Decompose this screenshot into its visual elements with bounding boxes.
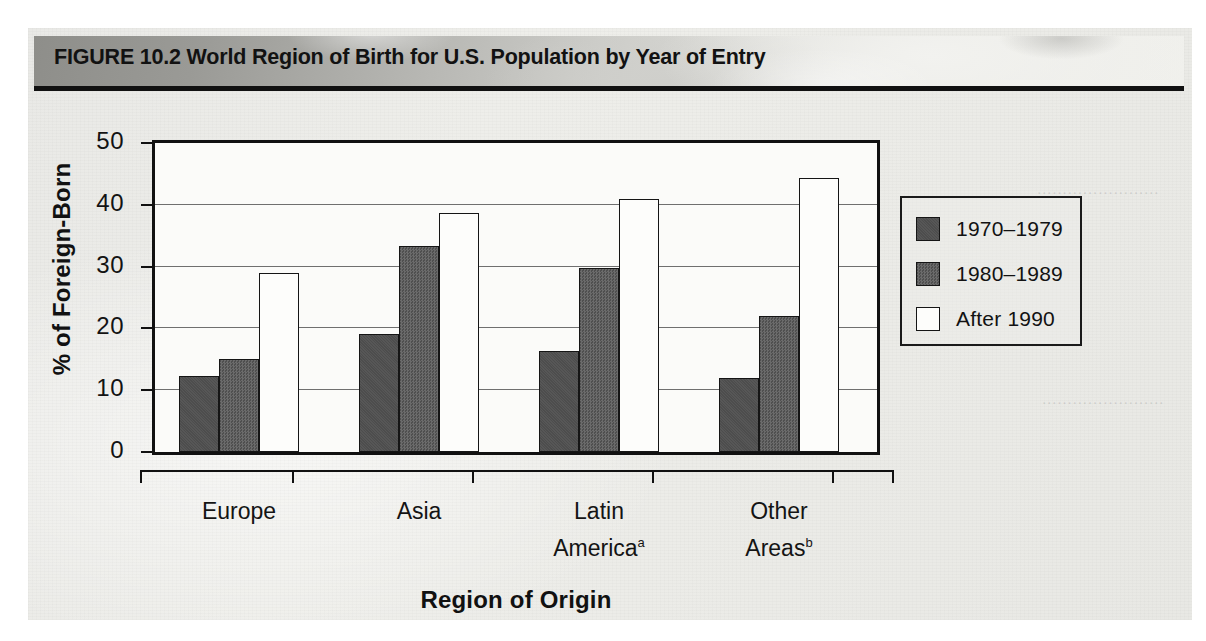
bar [719, 378, 759, 452]
x-axis-tick [140, 470, 142, 483]
y-axis-tick [141, 327, 152, 329]
page-title: FIGURE 10.2 World Region of Birth for U.… [54, 45, 766, 70]
bar [539, 351, 579, 452]
chart-legend: 1970–19791980–1989After 1990 [900, 196, 1082, 346]
x-axis-category-label: OtherAreasb [679, 496, 879, 564]
y-axis-tick [141, 451, 152, 453]
x-axis-title: Region of Origin [316, 586, 716, 614]
legend-item: 1970–1979 [916, 214, 1063, 244]
bar [799, 178, 839, 452]
y-axis-tick-label: 10 [68, 374, 124, 402]
x-axis-tick [892, 470, 894, 483]
bar [259, 273, 299, 452]
y-axis-tick-label: 0 [68, 436, 124, 464]
bar [579, 268, 619, 452]
legend-item: 1980–1989 [916, 259, 1063, 289]
bar [179, 376, 219, 452]
bar [439, 213, 479, 452]
x-axis-category-label: Europe [139, 496, 339, 527]
y-axis-tick-label: 20 [68, 312, 124, 340]
dark-gray-swatch [916, 217, 940, 241]
gridline [155, 204, 877, 205]
x-axis-tick [292, 470, 294, 483]
legend-item: After 1990 [916, 304, 1055, 334]
y-axis-tick [141, 142, 152, 144]
bar [759, 316, 799, 452]
x-axis-line [140, 470, 892, 472]
gridline [155, 266, 877, 267]
x-axis-tick [832, 470, 834, 483]
plot-area [152, 140, 880, 455]
y-axis-tick [141, 204, 152, 206]
y-axis-tick-label: 50 [68, 127, 124, 155]
x-axis-category-label: LatinAmericaa [499, 496, 699, 564]
white-swatch [916, 307, 940, 331]
x-axis-tick [652, 470, 654, 483]
legend-item-label: 1970–1979 [956, 217, 1063, 241]
bar [219, 359, 259, 452]
x-axis-tick [472, 470, 474, 483]
bar-chart: % of Foreign-Born Region of Origin 1970–… [0, 0, 1206, 641]
y-axis-tick-label: 30 [68, 251, 124, 279]
medium-gray-swatch [916, 262, 940, 286]
legend-item-label: 1980–1989 [956, 262, 1063, 286]
bar [359, 334, 399, 452]
bar [399, 246, 439, 452]
bar [619, 199, 659, 452]
x-axis-category-label: Asia [319, 496, 519, 527]
y-axis-tick [141, 266, 152, 268]
y-axis-tick [141, 389, 152, 391]
page-background: …………………… …………………… FIGURE 10.2 World Regi… [0, 0, 1206, 641]
legend-item-label: After 1990 [956, 307, 1055, 331]
y-axis-tick-label: 40 [68, 189, 124, 217]
